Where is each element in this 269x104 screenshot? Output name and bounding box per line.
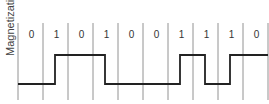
y-axis-label: Magnetization (4, 0, 16, 56)
bit-label: 0 (129, 29, 135, 40)
bit-label: 0 (29, 29, 35, 40)
bit-label: 1 (54, 29, 60, 40)
bit-labels: 0101001110 (29, 29, 260, 40)
bit-label: 0 (254, 29, 260, 40)
magnetization-diagram: Magnetization 0101001110 (0, 0, 269, 104)
bit-label: 1 (179, 29, 185, 40)
bit-label: 0 (154, 29, 160, 40)
bit-label: 1 (204, 29, 210, 40)
bit-label: 1 (104, 29, 110, 40)
bit-label: 1 (229, 29, 235, 40)
bit-label: 0 (79, 29, 85, 40)
